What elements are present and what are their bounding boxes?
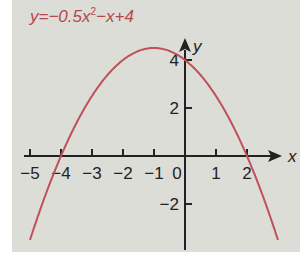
y-tick-label: −2 xyxy=(160,195,179,214)
y-axis-label: y xyxy=(192,37,203,56)
parabola-curve xyxy=(30,48,278,240)
x-tick-label: 2 xyxy=(242,164,251,183)
x-tick-label: −3 xyxy=(82,164,101,183)
x-tick-label: −2 xyxy=(113,164,132,183)
plot-area: xy−5−4−3−2−101242−2 xyxy=(0,0,300,266)
x-tick-label: 1 xyxy=(211,164,220,183)
x-axis-label: x xyxy=(287,147,297,166)
y-tick-label: 2 xyxy=(170,99,179,118)
x-tick-label: −1 xyxy=(144,164,163,183)
x-tick-label: 0 xyxy=(172,164,181,183)
x-tick-label: −5 xyxy=(20,164,39,183)
y-axis-arrow-icon xyxy=(179,38,191,52)
